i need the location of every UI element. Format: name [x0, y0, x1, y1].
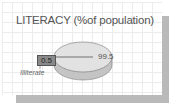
illiterate-category-label: Illiterate: [20, 69, 45, 76]
pie-chart: [0, 0, 169, 108]
literate-value-label: 99.5: [98, 52, 114, 61]
illiterate-value-label: 0.5: [37, 55, 56, 66]
